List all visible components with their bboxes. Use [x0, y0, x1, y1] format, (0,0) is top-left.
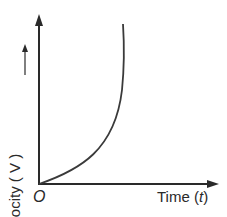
velocity-curve — [39, 24, 124, 184]
x-axis-arrowhead — [207, 180, 219, 188]
x-axis-label: Time (t) — [157, 188, 208, 205]
origin-label: O — [33, 188, 45, 206]
x-axis-label-close: ) — [203, 188, 208, 205]
y-label-arrowhead — [22, 44, 28, 52]
graph-canvas — [0, 0, 227, 217]
x-axis-label-text: Time ( — [157, 188, 199, 205]
y-axis-arrowhead — [35, 14, 43, 26]
y-axis-label-text: Velocity ( V ) — [6, 154, 23, 217]
y-axis-label: Velocity ( V ) — [6, 118, 26, 217]
